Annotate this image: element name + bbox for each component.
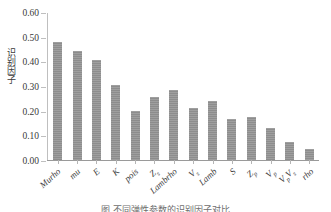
- bar-series: [48, 13, 319, 160]
- bar[interactable]: [305, 149, 314, 160]
- bar-slot: [48, 13, 67, 160]
- x-axis-category-label: S: [228, 165, 240, 177]
- y-axis-tick-label: 0.10: [22, 131, 39, 141]
- x-label-slot: pois: [126, 163, 145, 197]
- y-axis-tick-label: 0.60: [22, 8, 39, 18]
- bar[interactable]: [247, 117, 256, 160]
- y-axis-tick: [41, 161, 46, 162]
- y-axis-tick-label: 0.00: [22, 156, 39, 166]
- x-axis-category-label: pois: [123, 165, 142, 184]
- x-axis-category-labels: MurhomuEKpoisZsLambrhoVsLambSZpVpVpVsrho: [48, 163, 320, 197]
- bar-chart-figure: 识别因子 0.600.500.400.300.200.100.00 Murhom…: [0, 0, 331, 212]
- x-label-slot: VpVs: [281, 163, 300, 197]
- y-axis-tick: [41, 112, 46, 113]
- bar-slot: [67, 13, 86, 160]
- x-axis-line: [47, 160, 319, 161]
- y-axis-tick: [41, 136, 46, 137]
- y-axis-tick: [41, 87, 46, 88]
- bar[interactable]: [266, 128, 275, 160]
- x-label-slot: Lamb: [203, 163, 222, 197]
- bar-slot: [222, 13, 241, 160]
- bar-slot: [261, 13, 280, 160]
- y-axis-tick-label: 0.20: [22, 107, 39, 117]
- x-axis-category-label: K: [110, 165, 123, 178]
- x-axis-category-label: rho: [300, 165, 317, 182]
- bar[interactable]: [111, 85, 120, 160]
- bar[interactable]: [92, 60, 101, 160]
- bar[interactable]: [150, 97, 159, 160]
- x-axis-category-label: mu: [67, 165, 83, 181]
- bar-slot: [300, 13, 319, 160]
- bar[interactable]: [169, 90, 178, 160]
- x-label-slot: E: [87, 163, 106, 197]
- figure-caption: 图 不同弹性参数的识别因子对比: [0, 203, 331, 212]
- x-axis-category-label: VpVs: [277, 165, 299, 186]
- y-axis-tick-label: 0.50: [22, 33, 39, 43]
- x-axis-category-label: E: [91, 165, 103, 177]
- x-axis-category-label: Zp: [244, 165, 260, 181]
- x-label-slot: mu: [67, 163, 86, 197]
- x-axis-category-label: Murho: [38, 165, 64, 190]
- bar[interactable]: [53, 42, 62, 160]
- bar-slot: [203, 13, 222, 160]
- x-label-slot: S: [223, 163, 242, 197]
- bar[interactable]: [208, 101, 217, 160]
- y-axis-tick: [41, 13, 46, 14]
- x-label-slot: rho: [300, 163, 319, 197]
- bar[interactable]: [189, 108, 198, 160]
- bar-slot: [164, 13, 183, 160]
- x-label-slot: Lambrho: [165, 163, 184, 197]
- bar-slot: [106, 13, 125, 160]
- y-axis-tick: [41, 62, 46, 63]
- bar-slot: [87, 13, 106, 160]
- x-label-slot: Murho: [48, 163, 67, 197]
- bar-slot: [280, 13, 299, 160]
- y-axis-tick-label: 0.40: [22, 57, 39, 67]
- bar-slot: [125, 13, 144, 160]
- x-label-slot: Zp: [242, 163, 261, 197]
- y-axis-tick: [41, 38, 46, 39]
- bar-slot: [184, 13, 203, 160]
- x-label-slot: K: [106, 163, 125, 197]
- y-axis-tick-label: 0.30: [22, 82, 39, 92]
- plot-area: 0.600.500.400.300.200.100.00: [47, 13, 319, 161]
- bar[interactable]: [73, 51, 82, 160]
- bar[interactable]: [227, 119, 236, 160]
- bar-slot: [145, 13, 164, 160]
- y-axis-title: 识别因子: [2, 48, 16, 84]
- bar-slot: [242, 13, 261, 160]
- bar[interactable]: [285, 142, 294, 160]
- bar[interactable]: [131, 111, 140, 160]
